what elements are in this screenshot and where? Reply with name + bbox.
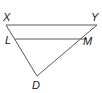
label-x: X xyxy=(2,11,11,23)
label-l: L xyxy=(5,34,11,46)
triangle-diagram: X Y L M D xyxy=(0,0,102,93)
segment-yd xyxy=(37,25,97,76)
label-m: M xyxy=(83,35,93,47)
label-d: D xyxy=(32,79,40,91)
label-y: Y xyxy=(91,11,99,23)
segment-xd xyxy=(6,25,37,76)
diagram-canvas: X Y L M D xyxy=(0,0,102,93)
